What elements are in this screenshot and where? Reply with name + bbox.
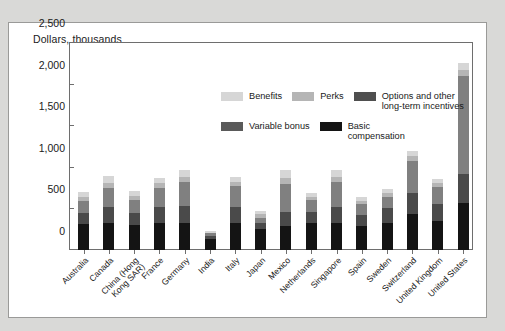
- bar-stack: [205, 231, 216, 250]
- bar-segment: [205, 239, 216, 250]
- bar-segment: [432, 221, 443, 250]
- x-tick-mark: [109, 250, 110, 254]
- legend-swatch-perks: [292, 92, 314, 101]
- bar-stack: [179, 170, 190, 250]
- bar-segment: [129, 200, 140, 212]
- bar-segment: [78, 224, 89, 250]
- x-tick-mark: [311, 250, 312, 254]
- bar-segment: [407, 193, 418, 215]
- bar-segment: [280, 184, 291, 211]
- bar-segment: [78, 201, 89, 213]
- bar-segment: [306, 212, 317, 224]
- bar-segment: [280, 178, 291, 185]
- bar-stack: [382, 189, 393, 250]
- bar-segment: [103, 188, 114, 207]
- bar-segment: [129, 213, 140, 225]
- bar-segment: [154, 223, 165, 250]
- bar-segment: [179, 223, 190, 250]
- bar-segment: [458, 174, 469, 203]
- x-tick-mark: [412, 250, 413, 254]
- bar-segment: [356, 226, 367, 250]
- y-tick-label: 2,500: [39, 17, 65, 29]
- legend-item: Benefits: [221, 91, 282, 101]
- chart-legend: BenefitsPerksOptions and other long-term…: [221, 91, 491, 151]
- x-tick-mark: [438, 250, 439, 254]
- bar-segment: [382, 223, 393, 250]
- bar-stack: [230, 177, 241, 250]
- bar-stack: [306, 193, 317, 250]
- bar-stack: [407, 151, 418, 250]
- legend-row: BenefitsPerksOptions and other long-term…: [221, 91, 491, 112]
- bar-segment: [458, 63, 469, 70]
- bar-segment: [382, 197, 393, 209]
- legend-row: Variable bonusBasic compensation: [221, 121, 491, 142]
- legend-swatch-benefits: [221, 92, 243, 101]
- x-tick-mark: [337, 250, 338, 254]
- x-tick-mark: [362, 250, 363, 254]
- y-tick-label: 1,500: [39, 100, 65, 112]
- y-tick-mark: [69, 84, 74, 85]
- legend-item: Variable bonus: [221, 121, 310, 131]
- bar-segment: [407, 214, 418, 250]
- chart-card: Dollars, thousands 05001,0001,5002,0002,…: [8, 22, 487, 318]
- bar-segment: [382, 208, 393, 222]
- bar-segment: [179, 170, 190, 177]
- bar-segment: [458, 203, 469, 250]
- plot-area: AustraliaCanadaChina (Hong Kong SAR)Fran…: [69, 42, 473, 250]
- bar-segment: [280, 170, 291, 177]
- y-tick-mark: [69, 167, 74, 168]
- bar-segment: [103, 223, 114, 250]
- x-tick-mark: [261, 250, 262, 254]
- legend-swatch-basic-compensation: [320, 122, 342, 131]
- bar-segment: [154, 207, 165, 223]
- bar-segment: [280, 226, 291, 250]
- bar-segment: [356, 204, 367, 215]
- bar-segment: [331, 170, 342, 177]
- bar-segment: [407, 161, 418, 193]
- y-tick-label: 1,000: [39, 142, 65, 154]
- legend-swatch-variable-bonus: [221, 122, 243, 131]
- legend-label: Perks: [320, 91, 344, 101]
- bar-segment: [103, 176, 114, 183]
- bar-segment: [356, 215, 367, 226]
- x-tick-mark: [84, 250, 85, 254]
- x-tick-mark: [185, 250, 186, 254]
- bar-segment: [154, 188, 165, 207]
- bar-segment: [331, 207, 342, 223]
- y-tick-label: 500: [47, 183, 65, 195]
- bar-segment: [230, 207, 241, 223]
- legend-label: Options and other long-term incentives: [382, 91, 464, 112]
- bar-segment: [306, 223, 317, 250]
- x-tick-mark: [387, 250, 388, 254]
- y-tick-mark: [69, 208, 74, 209]
- bar-stack: [103, 176, 114, 250]
- bar-segment: [230, 186, 241, 207]
- bar-segment: [255, 223, 266, 230]
- bar-stack: [356, 197, 367, 250]
- bar-stack: [154, 178, 165, 250]
- y-tick-label: 2,000: [39, 59, 65, 71]
- bar-segment: [179, 182, 190, 206]
- bar-segment: [432, 204, 443, 221]
- bar-segment: [331, 223, 342, 250]
- bar-stack: [280, 170, 291, 250]
- bar-stack: [255, 211, 266, 250]
- bar-stack: [78, 192, 89, 250]
- legend-item: Perks: [292, 91, 344, 101]
- y-tick-label: 0: [59, 225, 65, 237]
- y-axis-labels: 05001,0001,5002,0002,500: [9, 23, 65, 269]
- x-tick-mark: [286, 250, 287, 254]
- x-tick-mark: [134, 250, 135, 254]
- bar-stack: [129, 191, 140, 250]
- bar-segment: [78, 213, 89, 225]
- bar-segment: [179, 206, 190, 223]
- x-tick-mark: [235, 250, 236, 254]
- bar-segment: [306, 200, 317, 212]
- bar-segment: [255, 229, 266, 250]
- legend-label: Basic compensation: [348, 121, 405, 142]
- x-tick-mark: [210, 250, 211, 254]
- legend-swatch-options: [354, 92, 376, 101]
- legend-label: Variable bonus: [249, 121, 310, 131]
- bar-stack: [331, 170, 342, 250]
- bar-segment: [432, 187, 443, 204]
